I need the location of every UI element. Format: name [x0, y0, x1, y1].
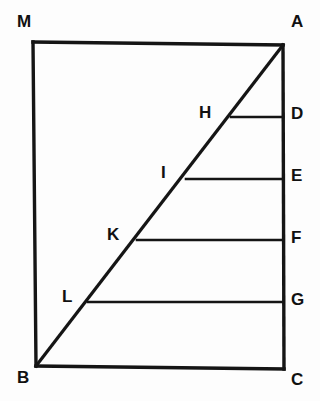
vertex-label-L: L [62, 288, 72, 305]
segment-MB-left-side [33, 42, 36, 366]
vertex-label-E: E [291, 167, 302, 184]
segment-BA-diagonal [36, 45, 283, 366]
geometric-diagram: M A B C D E F G H I K L [0, 0, 320, 401]
segment-BC-bottom-side [36, 366, 284, 369]
vertex-label-M: M [17, 13, 31, 30]
segment-AC-right-side [283, 45, 284, 369]
vertex-label-D: D [291, 105, 303, 122]
vertex-label-G: G [291, 291, 304, 308]
vertex-label-F: F [291, 229, 301, 246]
diagram-canvas [0, 0, 320, 401]
vertex-label-K: K [107, 226, 119, 243]
vertex-label-C: C [291, 371, 303, 388]
vertex-label-A: A [291, 13, 303, 30]
vertex-label-H: H [199, 104, 211, 121]
vertex-label-B: B [17, 369, 29, 386]
segment-MA-top-side [33, 42, 283, 45]
vertex-label-I: I [161, 164, 166, 181]
